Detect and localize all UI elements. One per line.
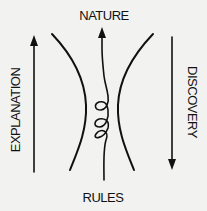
- arrow-down-icon: [168, 159, 176, 170]
- center-spiral-path: [95, 36, 108, 180]
- label-explanation: EXPLANATION: [8, 68, 23, 153]
- funnel-left-curve: [52, 34, 86, 170]
- center-spiral-arrow: [95, 27, 108, 180]
- diagram-canvas: NATURE RULES EXPLANATION DISCOVERY: [0, 0, 207, 211]
- label-rules: RULES: [83, 190, 125, 205]
- discovery-arrow: [168, 37, 176, 170]
- label-nature: NATURE: [79, 8, 129, 23]
- arrow-up-icon: [98, 27, 106, 38]
- explanation-arrow: [30, 35, 38, 172]
- arrow-up-icon: [30, 35, 38, 46]
- funnel-right-curve: [118, 34, 153, 170]
- label-discovery: DISCOVERY: [185, 66, 200, 139]
